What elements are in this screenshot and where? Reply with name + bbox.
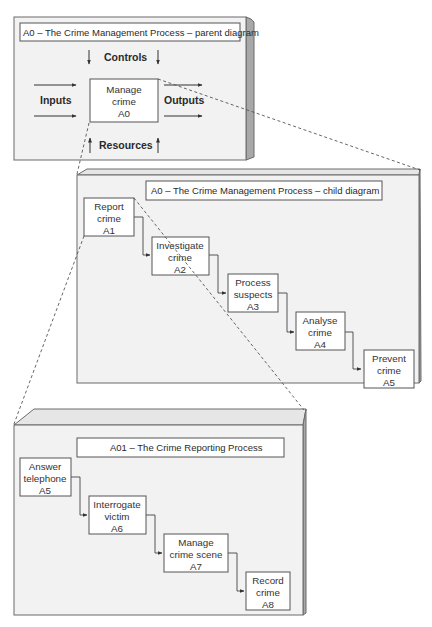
process-a7-line2: crime scene <box>170 549 223 560</box>
child-diagram-panel: A0 – The Crime Management Process – chil… <box>77 169 421 388</box>
inputs-label: Inputs <box>40 94 72 106</box>
process-box-a1[interactable]: Report crime A1 <box>84 198 134 236</box>
process-a2-code: A2 <box>174 264 186 275</box>
controls-label: Controls <box>104 51 147 63</box>
process-box-manage-crime-scene[interactable]: Manage crime scene A7 <box>164 534 228 572</box>
process-a7-code: A7 <box>190 561 202 572</box>
process-a8-line1: Record <box>252 575 284 586</box>
parent-panel-side <box>246 17 254 160</box>
outputs-label: Outputs <box>164 94 204 106</box>
child-panel-top <box>77 169 420 175</box>
process-a3-line1: Process <box>235 277 270 288</box>
reporting-title: A01 – The Crime Reporting Process <box>110 442 263 453</box>
process-a7-line1: Manage <box>178 537 214 548</box>
process-a5-line2: crime <box>377 365 401 376</box>
process-r-a5-line1: Answer <box>29 461 62 472</box>
process-box-answer-telephone[interactable]: Answer telephone A5 <box>20 458 71 496</box>
child-title: A0 – The Crime Management Process – chil… <box>151 185 380 196</box>
process-a5-code: A5 <box>383 377 396 388</box>
process-a2-line2: crime <box>168 252 192 263</box>
process-a4-line2: crime <box>308 327 332 338</box>
resources-label: Resources <box>99 139 153 151</box>
process-a6-line2: victim <box>104 511 129 522</box>
process-a5-line1: Prevent <box>372 353 406 364</box>
process-a1-line1: Report <box>94 201 124 212</box>
process-a8-code: A8 <box>262 599 275 610</box>
reporting-panel-top <box>14 409 306 425</box>
process-a4-line1: Analyse <box>303 315 338 326</box>
process-a6-line1: Interrogate <box>93 499 141 510</box>
process-box-record-crime[interactable]: Record crime A8 <box>246 572 290 610</box>
process-box-a4[interactable]: Analyse crime A4 <box>296 312 345 350</box>
process-r-a5-line2: telephone <box>23 473 67 484</box>
process-a8-line2: crime <box>256 587 280 598</box>
process-a1-line2: crime <box>97 213 121 224</box>
process-a0-line2: crime <box>112 96 136 107</box>
idef0-decomposition-diagram: A0 – The Crime Management Process – pare… <box>0 0 432 627</box>
process-a0-line1: Manage <box>106 84 142 95</box>
process-a2-line1: Investigate <box>156 240 204 251</box>
process-box-a5[interactable]: Prevent crime A5 <box>364 350 414 388</box>
process-a3-line2: suspects <box>234 289 273 300</box>
process-box-a3[interactable]: Process suspects A3 <box>228 274 278 312</box>
parent-diagram-panel: A0 – The Crime Management Process – pare… <box>14 17 259 160</box>
parent-title: A0 – The Crime Management Process – pare… <box>23 27 259 38</box>
process-a1-code: A1 <box>103 225 115 236</box>
process-a4-code: A4 <box>314 339 327 350</box>
process-box-a0[interactable]: Manage crime A0 <box>90 79 158 122</box>
reporting-diagram-panel: A01 – The Crime Reporting Process Answer… <box>14 409 306 615</box>
zoom-line-a1-to-reporting-left <box>14 236 84 424</box>
process-a6-code: A6 <box>111 523 124 534</box>
process-a3-code: A3 <box>247 301 260 312</box>
process-r-a5-code: A5 <box>39 485 52 496</box>
process-a0-code: A0 <box>118 108 131 119</box>
process-box-interrogate-victim[interactable]: Interrogate victim A6 <box>89 496 146 534</box>
